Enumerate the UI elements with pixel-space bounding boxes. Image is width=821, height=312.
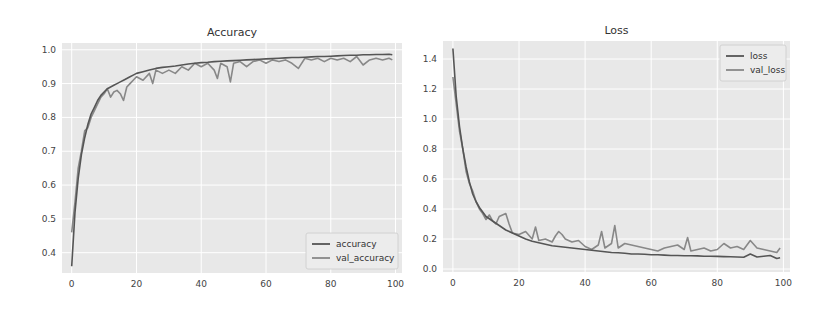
y-tick-label: 0.4 [423,204,438,214]
x-tick-label: 0 [450,278,456,288]
legend-label: loss [750,51,768,61]
legend-label: val_accuracy [336,253,395,263]
x-tick-label: 20 [131,279,143,289]
accuracy-chart-canvas: 0204060801000.40.50.60.70.80.91.0Accurac… [0,0,410,312]
y-tick-label: 0.9 [42,79,57,89]
y-tick-label: 0.8 [423,144,438,154]
y-tick-label: 0.6 [423,174,438,184]
y-tick-label: 1.4 [423,54,438,64]
y-tick-label: 0.5 [42,214,56,224]
x-tick-label: 80 [712,278,724,288]
y-tick-label: 1.0 [42,45,57,55]
y-tick-label: 1.2 [423,84,437,94]
x-tick-label: 60 [260,279,272,289]
x-tick-label: 80 [325,279,337,289]
y-tick-label: 0.2 [423,234,437,244]
legend: lossval_loss [720,45,786,81]
x-tick-label: 60 [645,278,657,288]
y-tick-label: 0.7 [42,146,56,156]
y-tick-label: 1.0 [423,114,438,124]
chart-title: Accuracy [207,26,258,39]
x-tick-label: 40 [196,279,208,289]
loss-chart: 0204060801000.00.20.40.60.81.01.21.4Loss… [410,0,821,312]
y-tick-label: 0.6 [42,180,57,190]
legend: accuracyval_accuracy [306,233,398,269]
x-tick-label: 0 [69,279,75,289]
y-tick-label: 0.8 [42,112,57,122]
x-tick-label: 40 [579,278,591,288]
loss-chart-canvas: 0204060801000.00.20.40.60.81.01.21.4Loss… [410,0,821,312]
y-tick-label: 0.4 [42,248,57,258]
legend-label: val_loss [750,65,786,75]
chart-title: Loss [604,24,628,37]
x-tick-label: 100 [387,279,404,289]
legend-label: accuracy [336,239,377,249]
y-tick-label: 0.0 [423,264,438,274]
accuracy-chart: 0204060801000.40.50.60.70.80.91.0Accurac… [0,0,410,312]
x-tick-label: 100 [775,278,792,288]
x-tick-label: 20 [513,278,525,288]
